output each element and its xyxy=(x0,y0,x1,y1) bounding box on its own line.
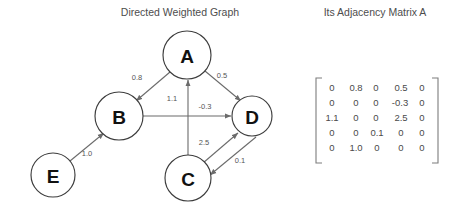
matrix-cell: 1.1 xyxy=(325,112,338,123)
matrix-cell: 0.5 xyxy=(394,82,407,93)
node-e-label: E xyxy=(47,166,60,187)
matrix-cell: 0 xyxy=(374,142,379,153)
matrix-cell: 0 xyxy=(353,127,358,138)
matrix-cell: 1.0 xyxy=(349,142,362,153)
matrix-cell: 0 xyxy=(373,82,378,93)
node-c-label: C xyxy=(181,169,195,190)
edge-d-c xyxy=(210,137,256,175)
matrix-cell: 0 xyxy=(329,82,334,93)
matrix-cell: 0.1 xyxy=(370,127,383,138)
matrix-cell: 0 xyxy=(329,97,334,108)
matrix-cell: 0 xyxy=(419,97,424,108)
matrix-cell: 0.8 xyxy=(349,82,362,93)
graph-panel-title: Directed Weighted Graph xyxy=(121,6,239,18)
adjacency-matrix: 0 0.8 0 0.5 0 0 0 0 -0.3 0 1.1 0 0 2.5 0… xyxy=(316,78,438,163)
matrix-row: 0 0.8 0 0.5 0 xyxy=(329,82,424,93)
matrix-cell: 0 xyxy=(419,112,424,123)
matrix-cell: 2.5 xyxy=(394,112,407,123)
matrix-cell: 0 xyxy=(373,97,378,108)
matrix-cell: 0 xyxy=(353,112,358,123)
matrix-right-bracket xyxy=(432,78,438,163)
node-b-label: B xyxy=(112,107,126,128)
node-a[interactable]: A xyxy=(163,31,211,79)
matrix-cell: 0 xyxy=(329,142,334,153)
matrix-row: 0 0 0 -0.3 0 xyxy=(329,97,424,108)
edge-weight-c-a: 1.1 xyxy=(167,94,177,103)
edge-weight-e-b: 1.0 xyxy=(82,149,92,158)
edge-weight-a-d: 0.5 xyxy=(217,71,227,80)
matrix-row: 0 1.0 0 0 0 xyxy=(329,142,424,153)
adjacency-matrix-figure: Directed Weighted Graph Its Adjacency Ma… xyxy=(0,0,462,206)
matrix-cell: -0.3 xyxy=(392,97,408,108)
edge-weight-b-d: -0.3 xyxy=(199,102,212,111)
node-b[interactable]: B xyxy=(95,92,143,140)
node-c[interactable]: C xyxy=(165,155,211,201)
node-d-label: D xyxy=(245,107,259,128)
matrix-cell: 0 xyxy=(329,127,334,138)
matrix-cell: 0 xyxy=(398,142,403,153)
matrix-cell: 0 xyxy=(419,142,424,153)
matrix-row: 1.1 0 0 2.5 0 xyxy=(325,112,424,123)
edge-weight-d-c: 0.1 xyxy=(235,156,245,165)
edge-weight-a-b: 0.8 xyxy=(132,73,142,82)
node-e[interactable]: E xyxy=(31,153,75,197)
edge-weight-c-d: 2.5 xyxy=(199,138,209,147)
node-a-label: A xyxy=(180,46,194,67)
matrix-row: 0 0 0.1 0 0 xyxy=(329,127,424,138)
matrix-cell: 0 xyxy=(419,82,424,93)
matrix-cell: 0 xyxy=(398,127,403,138)
matrix-panel-title: Its Adjacency Matrix A xyxy=(324,6,427,18)
matrix-left-bracket xyxy=(316,78,322,163)
matrix-cell: 0 xyxy=(373,112,378,123)
node-d[interactable]: D xyxy=(232,96,272,136)
matrix-cell: 0 xyxy=(419,127,424,138)
matrix-cell: 0 xyxy=(353,97,358,108)
